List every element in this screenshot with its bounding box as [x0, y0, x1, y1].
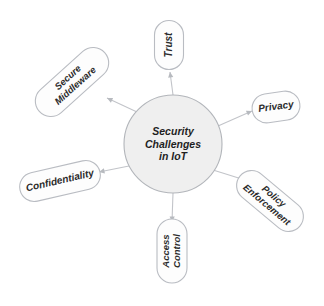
connector-line [218, 111, 252, 126]
node-access-control[interactable]: AccessControl [157, 219, 187, 283]
node-label-line: Control [171, 234, 182, 268]
node-label-group: AccessControl [160, 234, 182, 269]
center-label-line: Challenges [145, 138, 201, 150]
connector-access-control [169, 193, 174, 222]
connector-privacy [218, 109, 253, 126]
node-label-group: Trust [163, 32, 174, 57]
node-privacy[interactable]: Privacy [250, 89, 302, 124]
node-policy-enforcement[interactable]: PolicyEnforcement [230, 164, 309, 237]
center-label-line: Security [152, 125, 195, 137]
arrow-head-icon [106, 96, 113, 103]
arrow-head-icon [167, 72, 173, 78]
security-challenges-iot-diagram: TrustPrivacyPolicyEnforcementAccessContr… [0, 0, 324, 306]
center-node-group: SecurityChallengesin IoT [124, 95, 222, 193]
node-secure-middleware[interactable]: SecureMiddleware [29, 41, 115, 123]
diagram-canvas: TrustPrivacyPolicyEnforcementAccessContr… [0, 0, 324, 306]
node-confidentiality[interactable]: Confidentiality [17, 158, 103, 205]
node-trust[interactable]: Trust [155, 21, 184, 70]
connector-confidentiality [98, 166, 129, 175]
connector-trust [167, 72, 173, 95]
connector-secure-middleware [106, 96, 137, 112]
center-label-line: in IoT [159, 150, 189, 162]
node-label-line: Trust [163, 32, 174, 57]
node-label-line: Access [160, 234, 171, 268]
center-node[interactable]: SecurityChallengesin IoT [124, 95, 222, 193]
